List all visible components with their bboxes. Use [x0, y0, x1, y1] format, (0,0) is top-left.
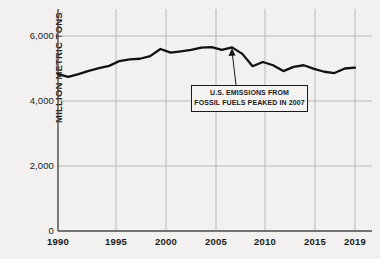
x-tick-label-2005: 2005	[196, 236, 236, 247]
plot-area	[0, 0, 380, 259]
vertical-gridlines	[116, 9, 355, 231]
x-tick-label-2000: 2000	[146, 236, 186, 247]
x-tick-label-2015: 2015	[295, 236, 335, 247]
peak-annotation-box: U.S. EMISSIONS FROM FOSSIL FUELS PEAKED …	[191, 85, 308, 112]
x-tick-label-2019: 2019	[335, 236, 375, 247]
emissions-data-line	[58, 47, 355, 77]
x-tick-label-2010: 2010	[245, 236, 285, 247]
peak-annotation-line-2: FOSSIL FUELS PEAKED IN 2007	[194, 98, 305, 108]
x-tick-label-1990: 1990	[38, 236, 78, 247]
callout-leader-line	[229, 48, 237, 85]
x-tick-label-1995: 1995	[96, 236, 136, 247]
peak-annotation-line-1: U.S. EMISSIONS FROM	[194, 88, 305, 98]
emissions-line-chart: MILLION METRIC TONS 6,000 4,000 2,000 0	[0, 0, 380, 259]
